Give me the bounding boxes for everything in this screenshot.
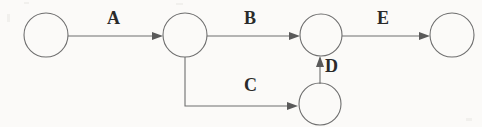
edge-e xyxy=(342,32,430,40)
edge-c xyxy=(185,57,298,110)
edge-c-arrowhead xyxy=(287,102,298,110)
diagram-svg xyxy=(0,0,482,127)
node-n3[interactable] xyxy=(300,14,342,56)
edge-b-arrowhead xyxy=(289,32,300,40)
edge-e-arrowhead xyxy=(419,32,430,40)
edge-d-arrowhead xyxy=(316,56,324,67)
node-n4[interactable] xyxy=(430,13,474,57)
edge-b xyxy=(207,32,300,40)
node-n2[interactable] xyxy=(163,13,207,57)
edge-d xyxy=(316,56,324,84)
edge-a-arrowhead xyxy=(152,32,163,40)
node-n1[interactable] xyxy=(24,13,68,57)
edge-c-line xyxy=(185,57,292,106)
edge-label-c: C xyxy=(244,76,257,94)
edge-label-d: D xyxy=(325,57,338,75)
edge-a xyxy=(68,32,163,40)
node-n5[interactable] xyxy=(299,83,341,125)
edge-label-a: A xyxy=(107,9,120,27)
diagram-canvas: A B E C D xyxy=(0,0,482,127)
edge-label-e: E xyxy=(377,9,389,27)
edge-label-b: B xyxy=(244,9,256,27)
